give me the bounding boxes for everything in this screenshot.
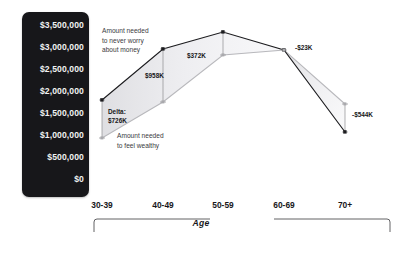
plot-area: Amount needed to never worry about money…	[90, 12, 396, 197]
y-axis-tick: $500,000	[47, 152, 84, 162]
x-axis-label-30-39: 30-39	[91, 200, 112, 210]
y-axis-tick: $2,000,000	[40, 86, 84, 96]
delta-label-40-49: $958K	[145, 72, 164, 81]
x-axis-label-50-59: 50-59	[212, 200, 233, 210]
x-axis-label-40-49: 40-49	[152, 200, 173, 210]
x-axis-label-60-69: 60-69	[273, 200, 294, 210]
x-axis-label-70plus: 70+	[338, 200, 352, 210]
y-axis-tick: $0	[74, 174, 84, 184]
y-axis-tick: $3,000,000	[40, 42, 84, 52]
y-axis-tick: $1,500,000	[40, 108, 84, 118]
y-axis-tick: $1,000,000	[40, 130, 84, 140]
y-axis-tick: $3,500,000	[40, 20, 84, 30]
y-axis-panel: $3,500,000 $3,000,000 $2,500,000 $2,000,…	[22, 12, 89, 197]
x-axis-title: Age	[0, 218, 402, 228]
delta-label-30-39: Delta: $726K	[108, 108, 127, 125]
delta-label-70plus: -$544K	[352, 111, 373, 120]
y-axis-tick: $2,500,000	[40, 64, 84, 74]
x-axis-labels: 30-39 40-49 50-59 60-69 70+	[90, 200, 396, 216]
annotation-feel-wealthy: Amount needed to feel wealthy	[117, 131, 164, 150]
chart-canvas: $3,500,000 $3,000,000 $2,500,000 $2,000,…	[0, 0, 402, 253]
delta-label-60-69: -$23K	[295, 44, 312, 53]
annotation-never-worry: Amount needed to never worry about money	[102, 26, 149, 55]
delta-label-50-59: $372K	[187, 52, 206, 61]
